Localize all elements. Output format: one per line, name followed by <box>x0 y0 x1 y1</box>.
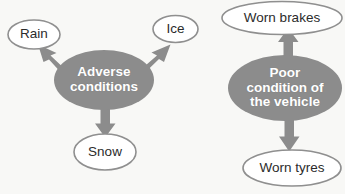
node-ice[interactable] <box>153 16 198 43</box>
node-worn-tyres[interactable] <box>243 150 341 186</box>
diagram-canvas: Rain Ice Snow Adverse conditions Worn br… <box>0 0 345 194</box>
node-adverse-conditions[interactable] <box>54 50 154 110</box>
node-poor-condition-of-the-vehicle[interactable] <box>228 55 342 121</box>
node-rain[interactable] <box>8 20 60 49</box>
node-snow[interactable] <box>74 134 136 170</box>
diagram-graphics <box>0 0 345 194</box>
node-worn-brakes[interactable] <box>222 2 342 35</box>
arrow-poor-condition-to-worn-tyres <box>279 116 300 152</box>
